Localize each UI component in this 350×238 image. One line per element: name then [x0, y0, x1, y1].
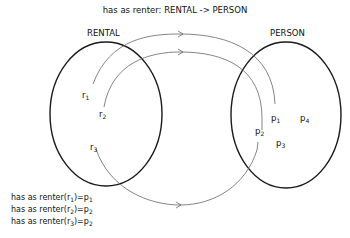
element-p1: p1	[271, 114, 280, 124]
element-r3: r3	[90, 143, 97, 153]
rental-set-label: RENTAL	[87, 29, 120, 38]
function-diagram: has as renter: RENTAL -> PERSON RENTAL P…	[0, 0, 350, 238]
function-values-list: has as renter(r1)=p1 has as renter(r2)=p…	[11, 193, 93, 229]
element-p3: p3	[276, 139, 285, 149]
mapping-arrow-r3-p2	[96, 142, 258, 205]
person-set-label: PERSON	[270, 29, 305, 38]
diagram-title: has as renter: RENTAL -> PERSON	[0, 6, 350, 15]
element-r2: r2	[99, 110, 106, 120]
mapping-arrow-r2-p2	[104, 52, 262, 130]
element-p4: p4	[300, 114, 309, 124]
function-value-line: has as renter(r2)=p2	[11, 205, 93, 217]
element-r1: r1	[82, 91, 89, 101]
person-set-ellipse	[231, 42, 341, 188]
element-p2: p2	[255, 127, 264, 137]
function-value-line: has as renter(r3)=p2	[11, 217, 93, 229]
function-value-line: has as renter(r1)=p1	[11, 193, 93, 205]
